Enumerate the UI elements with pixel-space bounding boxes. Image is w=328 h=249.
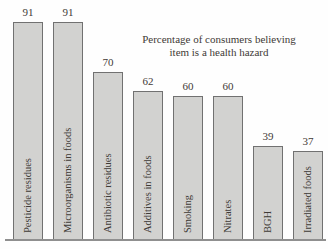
chart-title-line-1: Percentage of consumers believing — [140, 33, 298, 46]
bar-value-microorganisms-in-foods: 91 — [47, 6, 89, 18]
bar-category-label-antibiotic-residues: Antibiotic residues — [102, 153, 114, 233]
bar-value-bgh: 39 — [247, 130, 289, 142]
bar-nitrates: Nitrates — [213, 96, 243, 240]
x-axis-line — [5, 239, 326, 241]
bar-additives-in-foods: Additives in foods — [133, 91, 163, 240]
chart-title: Percentage of consumers believing item i… — [140, 33, 298, 59]
bar-category-label-additives-in-foods: Additives in foods — [142, 155, 154, 233]
bar-value-pesticide-residues: 91 — [7, 6, 49, 18]
bar-value-irradiated-foods: 37 — [287, 135, 328, 147]
bar-category-label-irradiated-foods: Irradiated foods — [302, 166, 314, 233]
bar-category-label-nitrates: Nitrates — [222, 200, 234, 233]
bar-pesticide-residues: Pesticide residues — [13, 22, 43, 240]
bar-bgh: BGH — [253, 146, 283, 240]
bar-smoking: Smoking — [173, 96, 203, 240]
bar-category-label-bgh: BGH — [262, 211, 274, 233]
chart-title-line-2: item is a health hazard — [140, 46, 298, 59]
bar-chart: Percentage of consumers believing item i… — [0, 0, 328, 249]
bar-microorganisms-in-foods: Microorganisms in foods — [53, 22, 83, 240]
bar-category-label-smoking: Smoking — [182, 195, 194, 233]
bar-category-label-pesticide-residues: Pesticide residues — [22, 158, 34, 233]
bar-value-smoking: 60 — [167, 80, 209, 92]
bar-value-antibiotic-residues: 70 — [87, 56, 129, 68]
bar-value-nitrates: 60 — [207, 80, 249, 92]
bar-category-label-microorganisms-in-foods: Microorganisms in foods — [62, 128, 74, 233]
bar-antibiotic-residues: Antibiotic residues — [93, 72, 123, 240]
bar-irradiated-foods: Irradiated foods — [293, 151, 323, 240]
bar-value-additives-in-foods: 62 — [127, 75, 169, 87]
